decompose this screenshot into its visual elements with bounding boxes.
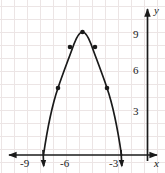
y-tick-label-3: 3 bbox=[133, 106, 139, 117]
data-point bbox=[80, 30, 85, 35]
x-axis-label: x bbox=[154, 158, 159, 169]
curve-left-branch-arrow bbox=[43, 150, 44, 166]
grid-lines bbox=[0, 0, 165, 173]
curve-right-branch-arrow bbox=[121, 150, 122, 166]
x-tick-label-neg6: -6 bbox=[60, 158, 69, 169]
x-tick-label-neg9: -9 bbox=[20, 158, 29, 169]
y-tick-label-9: 9 bbox=[133, 29, 139, 40]
x-tick-label-neg3: -3 bbox=[109, 158, 118, 169]
graph-figure: -9 -6 -3 9 6 3 x y bbox=[0, 0, 165, 173]
data-point bbox=[68, 45, 73, 50]
marked-points bbox=[56, 30, 110, 91]
data-point bbox=[105, 86, 110, 91]
data-point bbox=[93, 45, 98, 50]
y-tick-label-6: 6 bbox=[133, 65, 139, 76]
plot-canvas bbox=[0, 0, 165, 173]
data-point bbox=[56, 86, 61, 91]
y-axis-label: y bbox=[154, 5, 159, 16]
